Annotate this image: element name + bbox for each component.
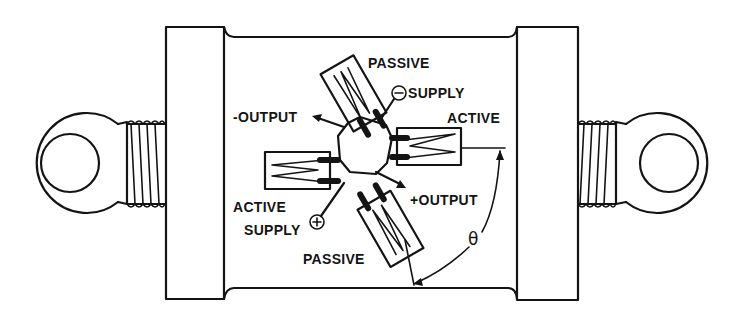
- label-active-right: ACTIVE: [447, 110, 500, 126]
- output-pos-arrow-icon: [396, 180, 406, 188]
- output-neg-arrow-icon: [312, 114, 322, 122]
- label-output-pos: +OUTPUT: [410, 192, 478, 208]
- label-angle-theta: θ: [468, 229, 478, 249]
- label-supply-neg: SUPPLY: [408, 85, 465, 101]
- right-thread: [578, 121, 616, 207]
- left-eye-bolt: [37, 113, 165, 213]
- right-eyelet-hole: [640, 134, 698, 192]
- right-eye-bolt: [578, 113, 707, 213]
- load-cell-diagram: PASSIVE SUPPLY -OUTPUT ACTIVE ACTIVE +OU…: [0, 0, 738, 324]
- left-thread: [127, 121, 165, 207]
- left-end-cap: [166, 27, 224, 299]
- angle-theta-indicator: [405, 148, 505, 286]
- strain-gauge-active-left: [265, 152, 338, 189]
- label-supply-pos: SUPPLY: [244, 222, 301, 238]
- label-passive-bottom: PASSIVE: [303, 251, 365, 267]
- label-active-left: ACTIVE: [233, 199, 286, 215]
- strain-gauge-active-right: [392, 128, 461, 165]
- angle-arrow-top-icon: [496, 150, 504, 160]
- left-eyelet-hole: [41, 134, 99, 192]
- right-end-cap: [517, 27, 578, 300]
- label-output-neg: -OUTPUT: [233, 109, 297, 125]
- label-passive-top: PASSIVE: [368, 55, 430, 71]
